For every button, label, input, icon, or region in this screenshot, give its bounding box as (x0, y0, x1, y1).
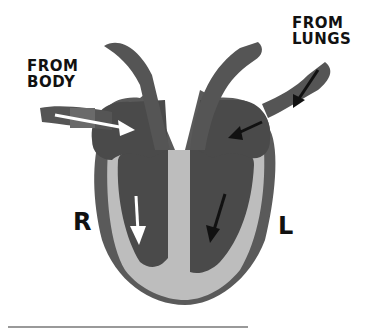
pulmonary-vein (262, 62, 330, 118)
label-right-side: R (73, 208, 91, 236)
heart-diagram (0, 0, 370, 328)
label-from-lungs: FROM LUNGS (292, 16, 351, 48)
label-from-body: FROM BODY (27, 59, 78, 91)
label-from-body-line2: BODY (27, 75, 78, 91)
label-from-lungs-line2: LUNGS (292, 32, 351, 48)
label-left-side: L (278, 212, 293, 240)
